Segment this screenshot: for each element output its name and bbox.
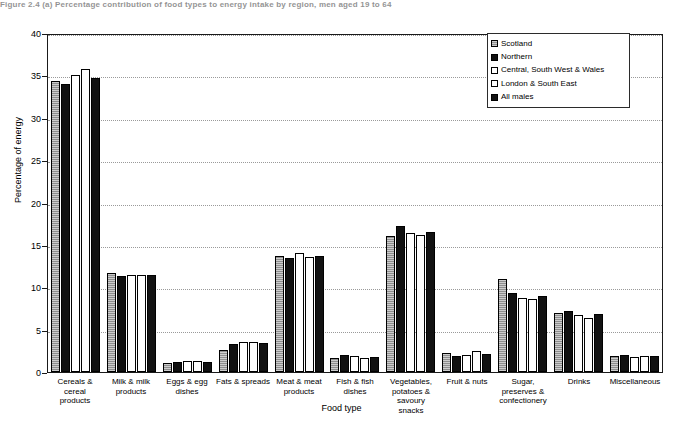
- legend-item[interactable]: All males: [491, 91, 625, 104]
- bar: [51, 81, 60, 372]
- legend-swatch-icon: [491, 67, 498, 74]
- bar: [508, 293, 517, 372]
- bar: [462, 355, 471, 372]
- legend-item-label: Central, South West & Wales: [501, 66, 604, 74]
- bar: [137, 275, 146, 372]
- y-axis-tick-label: 10: [31, 284, 41, 293]
- bar: [91, 78, 100, 372]
- bar: [416, 235, 425, 372]
- bar: [203, 362, 212, 372]
- bar: [173, 362, 182, 372]
- y-axis: 0510152025303540: [0, 34, 47, 373]
- bar: [472, 351, 481, 372]
- bar-group: [48, 35, 104, 372]
- legend-item[interactable]: London & South East: [491, 77, 625, 90]
- bar: [229, 344, 238, 372]
- bar: [81, 69, 90, 372]
- bar: [620, 355, 629, 372]
- bar: [386, 236, 395, 372]
- bar: [285, 258, 294, 372]
- bar-group: [271, 35, 327, 372]
- bar: [528, 299, 537, 372]
- legend-swatch-icon: [491, 40, 498, 47]
- bar: [163, 363, 172, 372]
- bar: [640, 356, 649, 372]
- y-axis-tick-label: 40: [31, 30, 41, 39]
- y-axis-tick-label: 25: [31, 157, 41, 166]
- bar: [71, 75, 80, 372]
- bar: [554, 313, 563, 372]
- legend-item[interactable]: Northern: [491, 50, 625, 63]
- legend-swatch-icon: [491, 80, 498, 87]
- y-axis-tick-label: 15: [31, 241, 41, 250]
- bar: [183, 361, 192, 372]
- y-axis-tick-mark: [42, 373, 47, 374]
- bar-group: [383, 35, 439, 372]
- bar: [147, 275, 156, 372]
- figure-caption: Figure 2.4 (a) Percentage contribution o…: [0, 0, 683, 12]
- bar: [498, 279, 507, 372]
- bar: [117, 276, 126, 372]
- bar: [275, 256, 284, 372]
- bar: [396, 226, 405, 372]
- legend-item-label: London & South East: [501, 80, 577, 88]
- y-axis-tick-label: 35: [31, 72, 41, 81]
- y-axis-tick-label: 5: [36, 326, 41, 335]
- legend-item-label: All males: [501, 93, 533, 101]
- bar: [107, 273, 116, 372]
- bar: [61, 84, 70, 372]
- legend-item[interactable]: Central, South West & Wales: [491, 64, 625, 77]
- bar: [219, 350, 228, 372]
- bar: [249, 342, 258, 372]
- bar: [315, 256, 324, 372]
- y-axis-tick-label: 30: [31, 114, 41, 123]
- bar: [127, 275, 136, 372]
- bar: [630, 357, 639, 372]
- legend-swatch-icon: [491, 94, 498, 101]
- bar: [482, 354, 491, 372]
- bar-group: [104, 35, 160, 372]
- bar-group: [215, 35, 271, 372]
- y-axis-title: Percentage of energy: [13, 90, 23, 230]
- bar: [305, 257, 314, 372]
- bar: [584, 318, 593, 372]
- bar: [426, 232, 435, 372]
- bar: [574, 315, 583, 372]
- y-axis-tick-label: 0: [36, 369, 41, 378]
- bar: [360, 358, 369, 372]
- bar: [239, 342, 248, 372]
- legend-swatch-icon: [491, 54, 498, 61]
- bar-group: [327, 35, 383, 372]
- bar: [370, 357, 379, 372]
- bar: [406, 233, 415, 372]
- bar: [350, 356, 359, 372]
- bar: [259, 343, 268, 372]
- bar: [650, 356, 659, 372]
- bar-group: [160, 35, 216, 372]
- bar: [564, 311, 573, 372]
- bar: [594, 314, 603, 372]
- y-axis-tick-label: 20: [31, 199, 41, 208]
- legend-item-label: Northern: [501, 53, 532, 61]
- bar: [295, 253, 304, 372]
- legend-item[interactable]: Scotland: [491, 37, 625, 50]
- bar: [518, 298, 527, 372]
- bar: [538, 296, 547, 372]
- bar: [442, 353, 451, 372]
- x-axis-title: Food type: [0, 403, 683, 413]
- bar: [330, 358, 339, 372]
- bar: [340, 355, 349, 372]
- chart-legend: ScotlandNorthernCentral, South West & Wa…: [487, 33, 630, 108]
- bar: [452, 356, 461, 372]
- bar: [610, 356, 619, 372]
- bar: [193, 361, 202, 372]
- legend-item-label: Scotland: [501, 40, 532, 48]
